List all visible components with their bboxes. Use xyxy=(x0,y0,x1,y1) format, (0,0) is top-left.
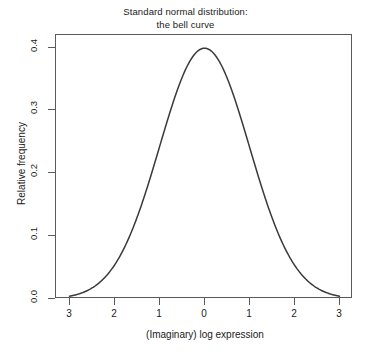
x-axis-tick xyxy=(114,298,115,305)
x-axis-tick-label: 2 xyxy=(99,308,129,319)
chart-figure: Standard normal distribution: the bell c… xyxy=(0,0,371,354)
x-axis-tick xyxy=(339,298,340,305)
x-axis-title: (Imaginary) log expression xyxy=(0,329,371,340)
y-axis-title: Relative frequency xyxy=(16,99,27,229)
x-axis-tick-label: 3 xyxy=(54,308,84,319)
x-axis-tick xyxy=(249,298,250,305)
chart-title: Standard normal distribution: the bell c… xyxy=(0,6,371,31)
bell-curve-path xyxy=(70,48,340,296)
y-axis-tick xyxy=(48,47,55,48)
y-axis-tick-label-wrap: 0.2 xyxy=(0,172,45,173)
plot-area xyxy=(55,34,352,298)
x-axis-tick xyxy=(159,298,160,305)
y-axis-tick-label: 0.3 xyxy=(28,96,39,120)
y-axis-tick xyxy=(48,109,55,110)
y-axis-tick-label-wrap: 0.4 xyxy=(0,47,45,48)
y-axis-tick-label: 0.2 xyxy=(28,159,39,183)
x-axis-tick-label: 2 xyxy=(279,308,309,319)
x-axis-tick xyxy=(294,298,295,305)
y-axis-tick xyxy=(48,172,55,173)
chart-title-line-1: Standard normal distribution: xyxy=(123,6,247,17)
y-axis-tick-label: 0.4 xyxy=(28,34,39,58)
y-axis-tick-label-wrap: 0.3 xyxy=(0,109,45,110)
chart-title-line-2: the bell curve xyxy=(0,19,371,32)
y-axis-tick xyxy=(48,235,55,236)
x-axis-tick-label: 1 xyxy=(234,308,264,319)
x-axis-tick-label: 1 xyxy=(144,308,174,319)
y-axis-tick-label-wrap: 0.0 xyxy=(0,298,45,299)
y-axis-tick-label: 0.0 xyxy=(28,285,39,309)
x-axis-tick xyxy=(69,298,70,305)
x-axis-tick-label: 3 xyxy=(324,308,354,319)
bell-curve-line xyxy=(56,35,353,299)
y-axis-tick-label: 0.1 xyxy=(28,222,39,246)
y-axis-tick xyxy=(48,298,55,299)
y-axis-tick-label-wrap: 0.1 xyxy=(0,235,45,236)
x-axis-tick xyxy=(204,298,205,305)
x-axis-tick-label: 0 xyxy=(189,308,219,319)
